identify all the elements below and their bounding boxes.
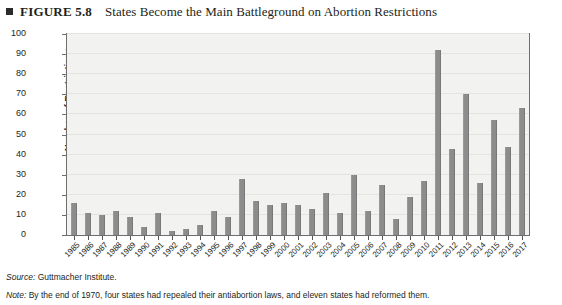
bar [477, 183, 483, 235]
bar [71, 203, 77, 235]
bar [519, 108, 525, 235]
bar [225, 217, 231, 235]
bar [127, 217, 133, 235]
y-axis-tick-label: 30 [0, 170, 26, 179]
bar [449, 149, 455, 235]
source-label: Source: [6, 272, 35, 282]
bar [113, 211, 119, 235]
bar [169, 231, 175, 235]
y-axis-tick-label: 100 [0, 29, 26, 38]
bar [491, 120, 497, 235]
bar [141, 227, 147, 235]
bar [183, 229, 189, 235]
bar [337, 213, 343, 235]
bar [253, 201, 259, 235]
y-axis-tick-label: 0 [0, 230, 26, 239]
bar [239, 179, 245, 235]
bar [99, 215, 105, 235]
bar [421, 181, 427, 235]
figure-label: FIGURE 5.8 [20, 4, 92, 20]
bar [155, 213, 161, 235]
chart-container: Number of Restrictions 01020304050607080… [0, 28, 562, 268]
y-axis-tick-label: 50 [0, 130, 26, 139]
bar [435, 50, 441, 235]
bar [393, 219, 399, 235]
x-axis-tick-labels: 1985198619871988198919901991199219931994… [67, 241, 529, 271]
bar [267, 205, 273, 235]
y-axis-tick-label: 40 [0, 150, 26, 159]
note-text: By the end of 1970, four states had repe… [26, 290, 429, 300]
y-axis-tick-label: 10 [0, 210, 26, 219]
bar [323, 193, 329, 235]
figure-title: States Become the Main Battleground on A… [105, 4, 437, 20]
y-axis-tick-label: 70 [0, 89, 26, 98]
bar [281, 203, 287, 235]
bar [351, 175, 357, 235]
y-axis-tick-label: 80 [0, 69, 26, 78]
y-axis-tick-label: 90 [0, 49, 26, 58]
bar [309, 209, 315, 235]
explanatory-note: Note: By the end of 1970, four states ha… [6, 290, 429, 300]
source-note: Source: Guttmacher Institute. [6, 272, 117, 282]
bar [505, 147, 511, 235]
bar [295, 205, 301, 235]
bar [463, 94, 469, 235]
y-axis-tick-label: 60 [0, 109, 26, 118]
bar [85, 213, 91, 235]
note-label: Note: [6, 290, 26, 300]
filled-square-icon [6, 8, 13, 15]
bar [197, 225, 203, 235]
figure-header: FIGURE 5.8 States Become the Main Battle… [6, 4, 437, 20]
y-axis-tick-label: 20 [0, 190, 26, 199]
bar [211, 211, 217, 235]
bar [379, 185, 385, 235]
bar [365, 211, 371, 235]
source-text: Guttmacher Institute. [35, 272, 116, 282]
bar-series [67, 34, 529, 235]
bar [407, 197, 413, 235]
